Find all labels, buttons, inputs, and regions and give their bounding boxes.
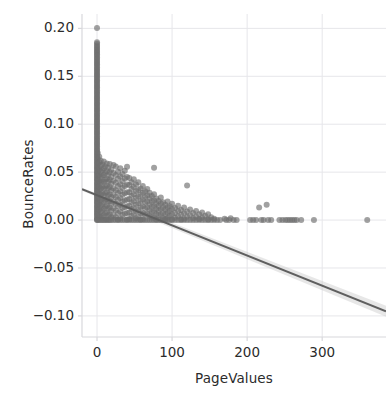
scatter-point (234, 217, 240, 223)
plot-canvas (0, 0, 386, 402)
scatter-point (298, 217, 304, 223)
scatter-point (94, 25, 100, 31)
scatter-point (264, 202, 270, 208)
scatter-plot-figure: 0.200.150.100.050.00−0.05−0.10 010020030… (0, 0, 386, 402)
scatter-point (151, 165, 157, 171)
x-axis-title: PageValues (82, 370, 386, 386)
y-axis-title: BounceRates (20, 124, 36, 244)
y-tick-label-0: 0.20 (22, 19, 74, 35)
scatter-point (364, 217, 370, 223)
x-tick-label-1: 100 (142, 344, 202, 360)
x-tick-label-2: 200 (217, 344, 277, 360)
x-tick-label-3: 300 (292, 344, 352, 360)
y-tick-label-1: 0.15 (22, 67, 74, 83)
scatter-point (253, 217, 259, 223)
scatter-point (124, 164, 130, 170)
scatter-point (311, 217, 317, 223)
scatter-point (184, 183, 190, 189)
scatter-point (256, 205, 262, 211)
scatter-point (268, 217, 274, 223)
y-tick-label-5: −0.05 (22, 259, 74, 275)
y-tick-label-6: −0.10 (22, 307, 74, 323)
x-tick-label-0: 0 (67, 344, 127, 360)
